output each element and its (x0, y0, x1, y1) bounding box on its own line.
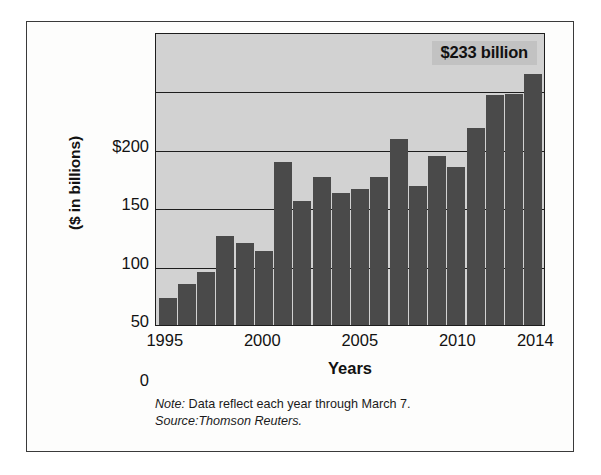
x-tick-label: 2005 (341, 331, 378, 350)
bar (351, 189, 369, 325)
bar (447, 167, 465, 325)
plot-inner (156, 34, 544, 325)
footnotes: Note: Data reflect each year through Mar… (155, 396, 555, 431)
bar (486, 95, 504, 325)
bar (505, 94, 523, 325)
bar (236, 243, 254, 325)
bar (409, 186, 427, 325)
footnote-note: Note: Data reflect each year through Mar… (155, 396, 555, 413)
bar (197, 272, 215, 325)
footnote-source: Source:Thomson Reuters. (155, 413, 555, 430)
x-tick-label: 2010 (439, 331, 476, 350)
footnote-note-text: Data reflect each year through March 7. (185, 397, 410, 411)
bar (332, 193, 350, 325)
y-axis-tick-labels: 050100150$200 (73, 76, 149, 326)
chart-card: ($ in billions) 050100150$200 $233 billi… (26, 21, 574, 452)
bar (370, 177, 388, 325)
bar (274, 162, 292, 325)
bar (255, 251, 273, 325)
y-tick-label: 50 (73, 313, 149, 330)
bar (313, 177, 331, 325)
x-axis-title: Years (155, 359, 545, 378)
bar (390, 139, 408, 325)
y-tick-label: $200 (73, 137, 149, 154)
footnote-note-key: Note: (155, 397, 185, 411)
bar (159, 298, 177, 325)
x-axis-tick-labels: 19952000200520102014 (155, 331, 545, 355)
bar (178, 284, 196, 325)
bar-series (156, 34, 544, 325)
x-tick-label: 1995 (146, 331, 183, 350)
x-tick-label: 2000 (244, 331, 281, 350)
x-tick-label: 2014 (517, 331, 554, 350)
y-tick-label: 100 (73, 255, 149, 272)
bar (428, 156, 446, 325)
value-callout-annotation: $233 billion (432, 41, 537, 65)
bar (216, 236, 234, 325)
plot-area: $233 billion (155, 33, 545, 326)
y-tick-label: 0 (73, 372, 149, 389)
y-tick-label: 150 (73, 196, 149, 213)
bar (293, 201, 311, 325)
bar (467, 128, 485, 325)
bar (524, 74, 542, 325)
